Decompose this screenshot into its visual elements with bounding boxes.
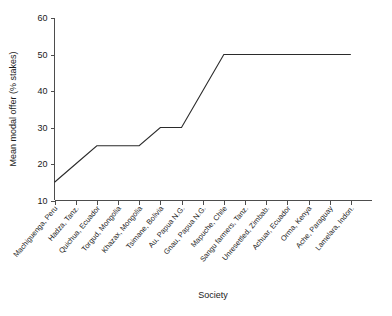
x-axis-title: Society	[198, 290, 228, 300]
y-axis-tick-label: 50	[37, 50, 47, 60]
y-axis-title: Mean modal offer (% stakes)	[8, 52, 18, 167]
y-axis-tick-labels: 102030405060	[37, 13, 47, 206]
y-axis-tick-label: 20	[37, 159, 47, 169]
y-axis-tick-label: 60	[37, 13, 47, 23]
chart-figure: 102030405060 Machiguenga, PeruHadza, Tan…	[0, 0, 392, 316]
x-axis-category-label: Lamelara, Indon.	[313, 204, 356, 252]
line-chart: 102030405060 Machiguenga, PeruHadza, Tan…	[0, 0, 392, 316]
y-axis-tick-label: 40	[37, 86, 47, 96]
y-axis-tick-label: 30	[37, 123, 47, 133]
y-axis-ticks	[51, 19, 55, 202]
x-axis-ticks	[55, 201, 351, 205]
y-axis-tick-label: 10	[37, 196, 47, 206]
x-axis-category-labels: Machiguenga, PeruHadza, Tanz.Quichua, Ec…	[11, 203, 355, 263]
data-series-line	[55, 55, 351, 183]
